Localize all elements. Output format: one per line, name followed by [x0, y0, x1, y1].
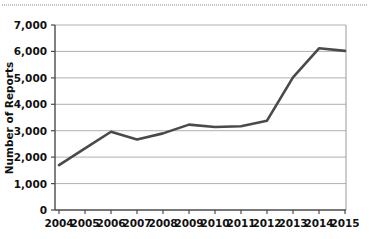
y-tick-label-3000: 3,000: [14, 125, 47, 137]
x-tick-label-2004: 2004: [44, 217, 73, 229]
chart-figure: 7,000 6,000 5,000 4,000 3,000 2,000 1,00…: [0, 0, 369, 239]
y-tick-label-1000: 1,000: [14, 178, 47, 190]
x-tick-label-2009: 2009: [174, 217, 203, 229]
x-tick-label-2012: 2012: [252, 217, 281, 229]
x-tick-label-2010: 2010: [200, 217, 229, 229]
y-axis-tick-labels: 7,000 6,000 5,000 4,000 3,000 2,000 1,00…: [14, 19, 47, 216]
line-chart: 7,000 6,000 5,000 4,000 3,000 2,000 1,00…: [0, 0, 369, 239]
x-tick-label-2015: 2015: [330, 217, 359, 229]
y-axis-title: Number of Reports: [3, 62, 15, 175]
x-tick-label-2006: 2006: [96, 217, 125, 229]
x-tick-label-2008: 2008: [148, 217, 177, 229]
y-tick-label-4000: 4,000: [14, 98, 47, 110]
y-tick-label-7000: 7,000: [14, 19, 47, 31]
x-tick-label-2007: 2007: [122, 217, 151, 229]
x-tick-label-2005: 2005: [70, 217, 99, 229]
x-axis-tick-labels: 2004 2005 2006 2007 2008 2009 2010 2011 …: [44, 217, 359, 229]
x-tick-label-2014: 2014: [304, 217, 333, 229]
y-tick-label-2000: 2,000: [14, 151, 47, 163]
plot-area-background: [55, 25, 346, 210]
y-tick-label-0: 0: [40, 204, 47, 216]
x-tick-label-2011: 2011: [226, 217, 255, 229]
y-tick-label-5000: 5,000: [14, 72, 47, 84]
y-tick-label-6000: 6,000: [14, 45, 47, 57]
x-tick-label-2013: 2013: [278, 217, 307, 229]
